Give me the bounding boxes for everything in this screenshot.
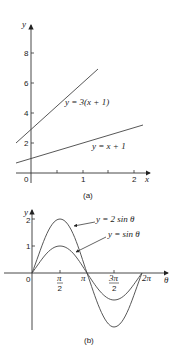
- x-tick-2: 2: [132, 175, 137, 184]
- tick-pi: π: [81, 273, 86, 283]
- line1-label: y = 3(x + 1): [64, 97, 109, 107]
- tick-pi-half-num: π: [57, 273, 62, 283]
- x-tick-1: 1: [81, 175, 86, 184]
- arrow-2sin: [74, 222, 95, 226]
- tick-3pi-half-num: 3π: [108, 273, 119, 283]
- y-tick-8: 8: [24, 49, 29, 58]
- y-tick-2: 2: [24, 139, 29, 148]
- origin-label: 0: [24, 175, 29, 184]
- curve1-label: y = 2 sin θ: [95, 214, 135, 224]
- line2-label: y = x + 1: [91, 141, 126, 151]
- caption-b: (b): [84, 336, 94, 345]
- panel-b: y 2 1 0 π 2 π 3π 2 2π θ y = 2 sin θ y = …: [4, 207, 169, 345]
- y-tick-4: 4: [24, 109, 29, 118]
- curve2-label: y = sin θ: [107, 229, 140, 239]
- y-tick-2: 2: [26, 216, 31, 225]
- tick-2pi: 2π: [142, 273, 152, 283]
- y-axis-label: y: [21, 19, 26, 29]
- y-tick-6: 6: [24, 79, 29, 88]
- x-axis-label: x: [144, 174, 149, 184]
- tick-3pi-half-den: 2: [112, 284, 117, 293]
- origin-label: 0: [26, 275, 31, 284]
- theta-axis-label: θ: [164, 275, 169, 285]
- panel-a: y 8 6 4 2 0 1 2 x y = 3(x + 1) y = x + 1…: [16, 19, 150, 200]
- caption-a: (a): [83, 191, 93, 200]
- tick-pi-half-den: 2: [58, 284, 63, 293]
- figure: y 8 6 4 2 0 1 2 x y = 3(x + 1) y = x + 1…: [0, 0, 178, 356]
- y-tick-1: 1: [26, 242, 31, 251]
- arrow-sin: [76, 237, 106, 252]
